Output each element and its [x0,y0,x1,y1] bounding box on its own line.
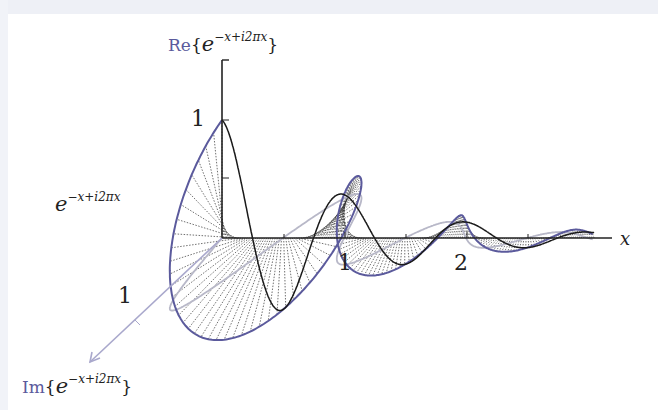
real-tick-label: 1 [191,106,205,131]
imag-projection-curve [170,194,593,311]
curve-label: e−x+i2πx [55,190,120,216]
imag-axis-label-exponent: −x+i2πx [68,372,121,386]
real-axis-label-base: e [202,32,214,56]
curve-label-exponent: −x+i2πx [67,190,120,204]
imag-axis-label-prefix: Im [22,377,45,397]
imag-tick-label: 1 [118,283,132,308]
x-tick-label-1: 1 [338,250,352,275]
real-axis-label: Re{e−x+i2πx} [168,30,278,56]
imag-axis-label: Im{e−x+i2πx} [22,372,132,398]
imag-tick-1 [135,320,140,325]
real-axis-label-prefix: Re [168,35,191,55]
real-projection-curve [222,120,594,311]
helix-curve [170,120,593,340]
hatching-lines [170,120,594,340]
real-axis-label-exponent: −x+i2πx [214,30,267,44]
curve-label-base: e [55,192,67,216]
x-tick-label-2: 2 [454,250,468,275]
x-axis-label: x [620,228,630,249]
imag-axis-label-base: e [56,374,68,398]
